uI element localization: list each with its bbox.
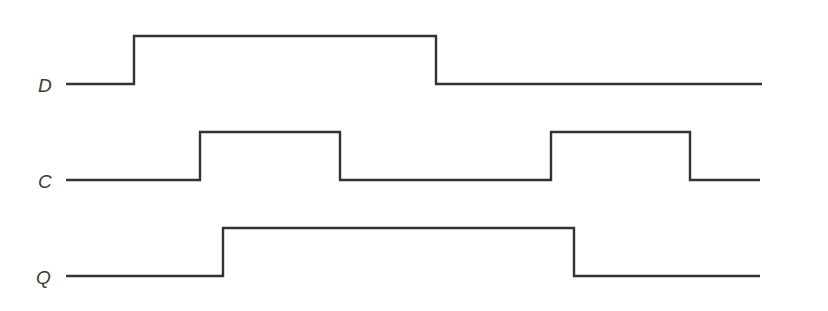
- signal-label-q: Q: [36, 267, 51, 288]
- signal-label-c: C: [38, 171, 52, 192]
- signal-label-d: D: [38, 75, 52, 96]
- signal-q: Q: [36, 228, 760, 288]
- signal-d: D: [38, 36, 762, 96]
- signal-waveform-q: [66, 228, 760, 276]
- signal-c: C: [38, 132, 760, 192]
- timing-diagram: D C Q: [0, 0, 828, 311]
- signal-waveform-d: [66, 36, 762, 84]
- signal-waveform-c: [66, 132, 760, 180]
